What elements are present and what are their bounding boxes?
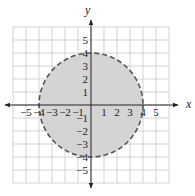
x-tick-label: 1	[101, 106, 107, 118]
y-tick-label: 1	[83, 86, 89, 98]
y-axis-label: y	[84, 3, 91, 17]
x-tick-label: −5	[20, 106, 32, 118]
coordinate-plane: −5−4−3−2−11234554321−1−2−3−4−5 x y	[0, 0, 195, 196]
y-tick-label: 3	[83, 60, 89, 72]
x-tick-label: 4	[140, 106, 146, 118]
x-tick-label: −4	[33, 106, 45, 118]
y-tick-label: 5	[83, 34, 89, 46]
y-tick-label: 4	[83, 47, 89, 59]
y-tick-label: −2	[76, 125, 88, 137]
axes	[5, 20, 178, 188]
y-tick-label: −3	[76, 138, 88, 150]
x-tick-label: 3	[127, 106, 133, 118]
y-tick-label: −1	[76, 112, 88, 124]
x-tick-label: −3	[46, 106, 58, 118]
x-tick-label: 5	[153, 106, 159, 118]
y-tick-label: 2	[83, 73, 89, 85]
x-tick-label: −2	[59, 106, 71, 118]
y-tick-label: −4	[76, 151, 88, 163]
x-axis-label: x	[185, 97, 192, 111]
x-tick-label: 2	[114, 106, 120, 118]
y-tick-label: −5	[76, 164, 88, 176]
